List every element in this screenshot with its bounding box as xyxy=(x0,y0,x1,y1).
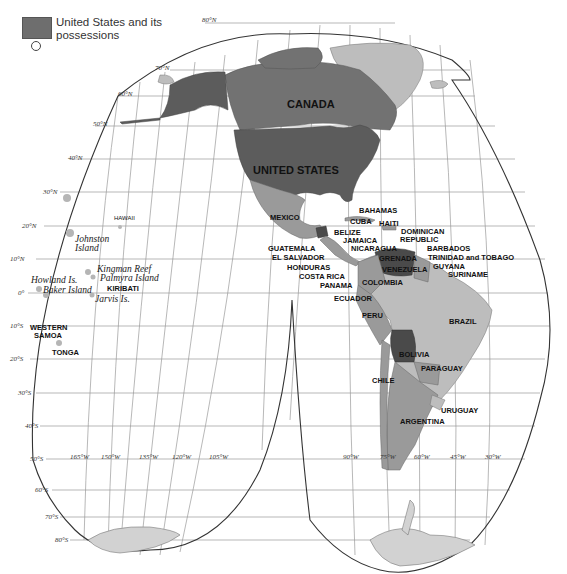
svg-text:105°W: 105°W xyxy=(209,453,229,461)
label-nicaragua: NICARAGUA xyxy=(351,244,397,253)
label-canada: CANADA xyxy=(287,98,335,110)
svg-text:20°S: 20°S xyxy=(10,355,24,363)
label-cuba: CUBA xyxy=(350,217,372,226)
svg-text:70°N: 70°N xyxy=(155,64,170,72)
label-united-states: UNITED STATES xyxy=(253,164,339,176)
svg-text:60°W: 60°W xyxy=(414,453,431,461)
svg-text:40°S: 40°S xyxy=(25,422,39,430)
svg-text:80°N: 80°N xyxy=(202,16,217,24)
label-el-salvador: EL SALVADOR xyxy=(272,253,325,262)
label-mexico: MEXICO xyxy=(270,213,300,222)
svg-text:40°N: 40°N xyxy=(68,154,83,162)
svg-text:10°S: 10°S xyxy=(10,322,24,330)
svg-text:20°N: 20°N xyxy=(22,222,37,230)
svg-text:30°N: 30°N xyxy=(42,188,58,196)
label-suriname: SURINAME xyxy=(448,270,488,279)
svg-text:75°W: 75°W xyxy=(380,453,397,461)
svg-text:50°N: 50°N xyxy=(93,120,108,128)
pacific-labels: HAWAII Johnston Island Kingman Reef Palm… xyxy=(30,215,159,357)
label-palmyra: Palmyra Island xyxy=(99,273,159,283)
svg-text:165°W: 165°W xyxy=(70,453,90,461)
svg-text:0°: 0° xyxy=(18,289,25,297)
longitude-labels: 165°W 150°W 135°W 120°W 105°W 90°W 75°W … xyxy=(70,453,502,461)
label-hawaii: HAWAII xyxy=(114,215,135,221)
label-guatemala: GUATEMALA xyxy=(268,244,316,253)
map-canvas: 80°N 70°N 60°N 50°N 40°N 30°N 20°N 10°N … xyxy=(0,0,567,574)
svg-text:60°N: 60°N xyxy=(118,90,133,98)
svg-text:45°W: 45°W xyxy=(450,453,467,461)
svg-text:60°S: 60°S xyxy=(35,486,49,494)
iceland xyxy=(430,80,448,88)
label-johnston-2: Island xyxy=(74,243,99,253)
label-paraguay: PARAGUAY xyxy=(421,364,463,373)
label-costa-rica: COSTA RICA xyxy=(299,272,345,281)
label-argentina: ARGENTINA xyxy=(400,417,445,426)
label-baker: Baker Island xyxy=(43,285,92,295)
label-colombia: COLOMBIA xyxy=(362,278,403,287)
label-jarvis: Jarvis Is. xyxy=(95,294,130,304)
label-chile: CHILE xyxy=(372,376,395,385)
label-brazil: BRAZIL xyxy=(449,317,477,326)
svg-text:80°S: 80°S xyxy=(55,536,69,544)
label-barbados: BARBADOS xyxy=(427,244,470,253)
svg-text:10°N: 10°N xyxy=(10,255,25,263)
aleutians xyxy=(120,118,160,124)
svg-text:30°W: 30°W xyxy=(484,453,502,461)
svg-text:135°W: 135°W xyxy=(139,453,159,461)
label-bolivia: BOLIVIA xyxy=(399,350,430,359)
label-venezuela: VENEZUELA xyxy=(382,265,428,274)
label-panama: PANAMA xyxy=(320,281,353,290)
label-honduras: HONDURAS xyxy=(287,263,330,272)
chukotka xyxy=(158,75,174,84)
label-kiribati: KIRIBATI xyxy=(107,284,139,293)
label-tonga: TONGA xyxy=(52,348,80,357)
label-trinidad: TRINIDAD and TOBAGO xyxy=(428,253,514,262)
label-haiti: HAITI xyxy=(379,219,399,228)
svg-text:150°W: 150°W xyxy=(101,453,121,461)
label-peru: PERU xyxy=(362,311,383,320)
svg-text:120°W: 120°W xyxy=(172,453,192,461)
svg-text:70°S: 70°S xyxy=(45,513,59,521)
label-howland: Howland Is. xyxy=(30,275,77,285)
label-western-samoa-2: SAMOA xyxy=(34,331,63,340)
label-bahamas: BAHAMAS xyxy=(359,206,397,215)
label-ecuador: ECUADOR xyxy=(334,294,373,303)
svg-text:50°S: 50°S xyxy=(30,455,44,463)
svg-text:30°S: 30°S xyxy=(17,389,32,397)
label-uruguay: URUGUAY xyxy=(441,406,478,415)
antarctica-right xyxy=(370,529,475,566)
label-dominican-2: REPUBLIC xyxy=(400,235,439,244)
arctic-islands xyxy=(258,48,322,70)
svg-text:90°W: 90°W xyxy=(343,453,360,461)
label-grenada: GRENADA xyxy=(379,254,418,263)
